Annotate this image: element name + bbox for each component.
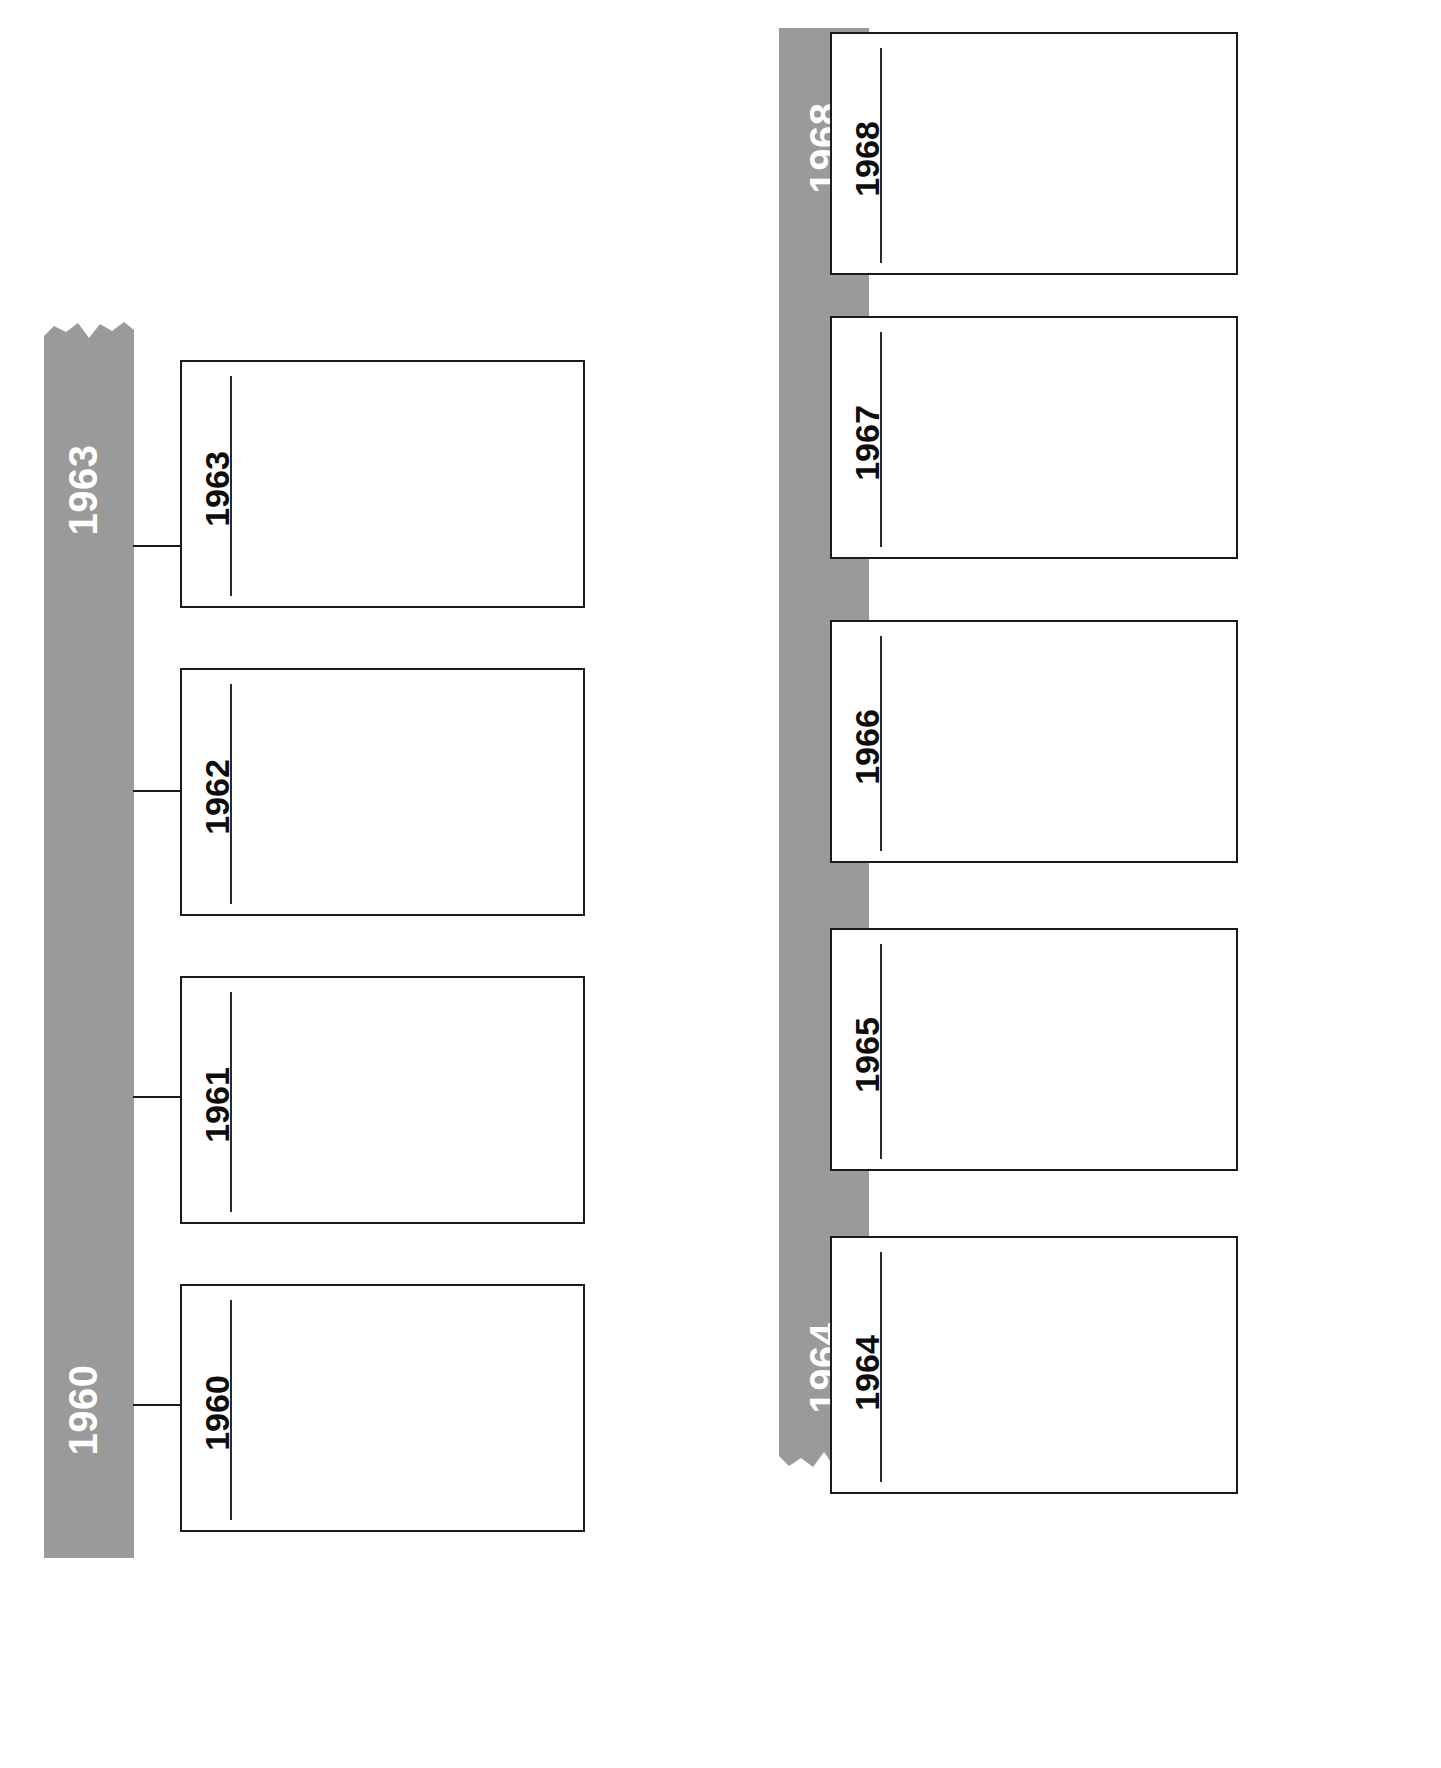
event-card-1960[interactable]: 1960 — [180, 1284, 585, 1532]
event-card-rule-1961 — [230, 992, 232, 1212]
event-card-year-1965: 1965 — [850, 975, 884, 1135]
connector-1960 — [133, 1404, 181, 1406]
event-card-year-1966: 1966 — [850, 667, 884, 827]
event-card-1966[interactable]: 1966 — [830, 620, 1238, 863]
event-card-body-1961[interactable] — [244, 992, 571, 1208]
connector-1961 — [133, 1096, 181, 1098]
event-card-1964[interactable]: 1964 — [830, 1236, 1238, 1494]
event-card-body-1962[interactable] — [244, 684, 571, 900]
left-spine-label-start: 1960 — [63, 1315, 103, 1505]
event-card-rule-1967 — [880, 332, 882, 547]
event-card-rule-1963 — [230, 376, 232, 596]
event-card-1963[interactable]: 1963 — [180, 360, 585, 608]
left-spine-label-end: 1963 — [63, 395, 103, 585]
event-card-year-1961: 1961 — [200, 1025, 234, 1185]
event-card-body-1968[interactable] — [894, 48, 1224, 259]
event-card-body-1967[interactable] — [894, 332, 1224, 543]
event-card-year-1968: 1968 — [850, 79, 884, 239]
event-card-year-1962: 1962 — [200, 717, 234, 877]
event-card-year-1960: 1960 — [200, 1333, 234, 1493]
event-card-rule-1966 — [880, 636, 882, 851]
event-card-rule-1960 — [230, 1300, 232, 1520]
event-card-1968[interactable]: 1968 — [830, 32, 1238, 275]
connector-1962 — [133, 790, 181, 792]
event-card-body-1966[interactable] — [894, 636, 1224, 847]
event-card-body-1965[interactable] — [894, 944, 1224, 1155]
event-card-body-1964[interactable] — [894, 1252, 1224, 1478]
event-card-1965[interactable]: 1965 — [830, 928, 1238, 1171]
timeline-worksheet: 1963 1960 1963 1962 1961 1960 — [0, 0, 1441, 1768]
event-card-rule-1962 — [230, 684, 232, 904]
connector-1963 — [133, 545, 181, 547]
event-card-year-1967: 1967 — [850, 363, 884, 523]
event-card-1961[interactable]: 1961 — [180, 976, 585, 1224]
event-card-year-1963: 1963 — [200, 409, 234, 569]
event-card-body-1963[interactable] — [244, 376, 571, 592]
event-card-rule-1964 — [880, 1252, 882, 1482]
event-card-year-1964: 1964 — [850, 1293, 884, 1453]
event-card-body-1960[interactable] — [244, 1300, 571, 1516]
event-card-1962[interactable]: 1962 — [180, 668, 585, 916]
event-card-rule-1968 — [880, 48, 882, 263]
event-card-rule-1965 — [880, 944, 882, 1159]
event-card-1967[interactable]: 1967 — [830, 316, 1238, 559]
